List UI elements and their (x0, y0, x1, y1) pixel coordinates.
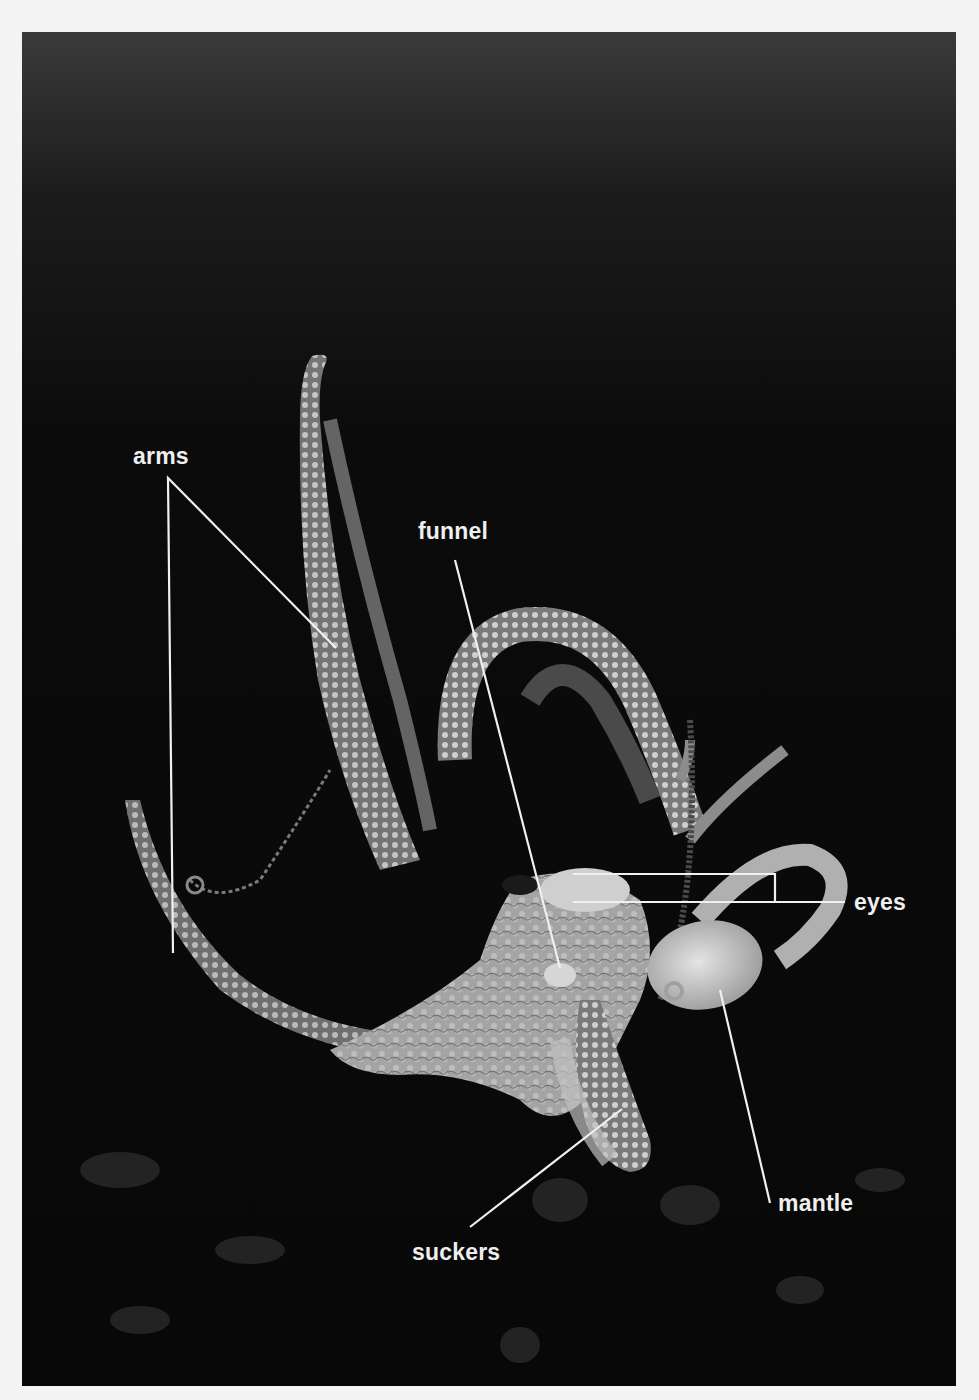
label-funnel: funnel (418, 520, 488, 543)
octopus-photo (22, 32, 956, 1386)
label-arms: arms (133, 445, 189, 468)
label-eyes: eyes (854, 891, 906, 914)
octopus-illustration (22, 32, 956, 1386)
label-suckers: suckers (412, 1241, 500, 1264)
label-mantle: mantle (778, 1192, 853, 1215)
